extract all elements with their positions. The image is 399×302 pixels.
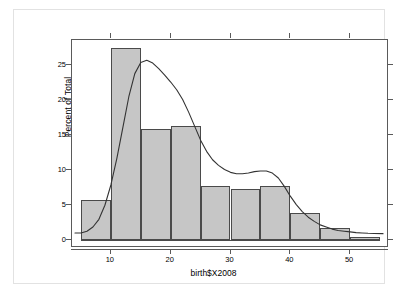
x-tick-mark-top [170, 33, 171, 38]
y-tick-label: 10 [58, 164, 66, 173]
y-tick-mark-right [388, 239, 393, 240]
x-tick-mark-top [349, 33, 350, 38]
x-tick-label: 30 [225, 255, 233, 264]
density-curve [72, 40, 387, 246]
y-tick-label: 15 [58, 129, 66, 138]
y-tick-mark-right [388, 99, 393, 100]
x-tick-label: 20 [166, 255, 174, 264]
y-tick-label: 20 [58, 94, 66, 103]
bottom-caption-text [16, 289, 346, 299]
figure-card: Percent of Total 0510152025 1020304050 b… [13, 9, 385, 284]
y-axis: 0510152025 [50, 39, 66, 247]
y-tick-mark-right [388, 134, 393, 135]
plot-area [71, 39, 388, 247]
y-tick-mark-right [388, 169, 393, 170]
y-tick-mark-right [388, 64, 393, 65]
x-axis-spine [71, 249, 388, 250]
zero-baseline [81, 240, 380, 241]
x-tick-label: 40 [285, 255, 293, 264]
screenshot-root: Percent of Total 0510152025 1020304050 b… [0, 0, 399, 302]
x-tick-mark-top [289, 33, 290, 38]
x-tick-mark-top [110, 33, 111, 38]
y-tick-mark-right [388, 204, 393, 205]
x-axis: 1020304050 [71, 249, 388, 263]
x-tick-mark-top [230, 33, 231, 38]
plot-inner [72, 40, 387, 246]
x-tick-label: 10 [106, 255, 114, 264]
x-tick-label: 50 [345, 255, 353, 264]
y-tick-label: 25 [58, 59, 66, 68]
x-axis-label: birth$X2008 [14, 268, 399, 278]
